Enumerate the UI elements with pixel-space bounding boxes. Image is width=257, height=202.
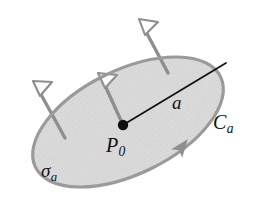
- label-sigma-base: σ: [41, 160, 50, 181]
- label-P0: P0: [106, 135, 125, 158]
- center-point-dot: [118, 120, 128, 130]
- label-sigma-subscript: a: [50, 169, 57, 184]
- label-surface-sigma-a: σa: [41, 161, 57, 184]
- label-radius-a-text: a: [172, 92, 182, 113]
- label-P0-subscript: 0: [118, 144, 125, 159]
- center-point-P0: [118, 120, 128, 130]
- vector-figure-canvas: [0, 0, 257, 202]
- label-Ca-base: C: [213, 111, 226, 133]
- normal-vector-left-arrowhead: [33, 81, 52, 96]
- label-radius-a: a: [172, 93, 182, 112]
- normal-vector-top-arrowhead: [139, 19, 158, 35]
- label-boundary-Ca: Ca: [213, 112, 233, 135]
- figure-container: P0 a Ca σa: [0, 0, 257, 202]
- label-P0-base: P: [106, 134, 118, 156]
- label-Ca-subscript: a: [226, 121, 233, 136]
